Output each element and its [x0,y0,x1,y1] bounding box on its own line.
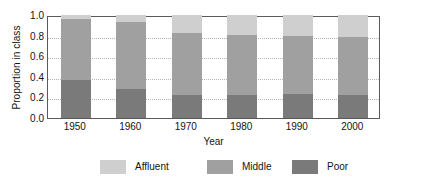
plot-inner [48,17,379,118]
gridline [48,79,379,80]
x-tick-label: 1970 [156,121,216,133]
x-axis-title: Year [47,136,380,147]
legend-label: Poor [327,161,348,172]
y-tick-label: 0.6 [18,52,44,62]
legend-swatch-icon [207,160,233,174]
bar-1980 [227,15,257,118]
gridline [48,38,379,39]
x-tick-label: 1980 [211,121,271,133]
legend-swatch-icon [100,160,126,174]
bar-1970 [172,15,202,118]
y-tick-label: 0.4 [18,73,44,83]
legend-item-affluent: Affluent [100,159,169,174]
bar-segment-middle [172,33,202,96]
gridline [48,99,379,100]
y-tick-label: 1.0 [18,11,44,21]
legend-label: Middle [242,161,271,172]
stacked-bar-chart-figure: Proportion in class 1.00.80.60.40.20.0 1… [0,0,426,186]
bar-segment-middle [227,35,257,96]
bar-segment-poor [61,80,91,118]
chart-legend: AffluentMiddlePoor [100,159,365,177]
bar-segment-poor [338,95,368,118]
bar-segment-middle [283,36,313,95]
bar-segment-affluent [172,15,202,33]
bar-segment-affluent [227,15,257,35]
legend-swatch-icon [292,160,318,174]
legend-item-poor: Poor [292,159,348,174]
legend-item-middle: Middle [207,159,271,174]
x-tick-label: 1960 [100,121,160,133]
bar-segment-affluent [283,15,313,36]
bar-1960 [116,15,146,118]
bar-1990 [283,15,313,118]
bar-segment-affluent [338,15,368,37]
gridline [48,58,379,59]
legend-label: Affluent [135,161,169,172]
bar-segment-poor [283,94,313,118]
x-tick-label: 1990 [267,121,327,133]
bar-segment-affluent [116,15,146,22]
bar-segment-poor [227,95,257,118]
y-tick-label: 0.8 [18,32,44,42]
bar-2000 [338,15,368,118]
x-tick-label: 1950 [45,121,105,133]
x-tick-label: 2000 [322,121,382,133]
bar-segment-affluent [61,15,91,19]
plot-area [47,16,380,119]
bar-segment-middle [116,22,146,88]
x-axis-tick-labels: 195019601970198019902000 [47,121,380,135]
bar-segment-middle [338,37,368,96]
bar-1950 [61,15,91,118]
y-tick-label: 0.2 [18,93,44,103]
bar-segment-poor [116,89,146,118]
y-tick-label: 0.0 [18,114,44,124]
bar-segment-poor [172,95,202,118]
y-axis-tick-labels: 1.00.80.60.40.20.0 [18,12,44,122]
bar-segment-middle [61,19,91,80]
